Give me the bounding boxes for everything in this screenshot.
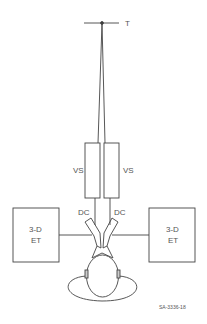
left-dc-label: DC [78,208,90,217]
left-sightline [98,23,102,143]
binocular-setup-diagram: T VS VS DC DC 3-D ET 3-D ET SA-3336-18 [0,0,207,324]
right-dc-mirror [103,218,118,248]
target-label: T [125,19,130,28]
left-vs-label: VS [73,166,84,175]
right-et-label-line1: 3-D [166,225,179,234]
right-sightline [102,23,105,143]
left-vs-box [85,143,100,198]
left-et-label-line1: 3-D [29,225,42,234]
left-ear [85,270,88,278]
right-dc-label: DC [114,208,126,217]
left-dc-mirror [85,218,101,248]
left-et-label-line2: ET [31,236,41,245]
figure-id: SA-3336-18 [159,304,186,310]
diagram-canvas: T VS VS DC DC 3-D ET 3-D ET SA-3336-18 [0,0,207,324]
right-vs-box [104,143,119,198]
right-et-box [149,208,195,262]
head [87,255,119,297]
left-et-box [13,208,59,262]
right-et-label-line2: ET [168,236,178,245]
right-ear [117,270,120,278]
right-vs-label: VS [123,166,134,175]
